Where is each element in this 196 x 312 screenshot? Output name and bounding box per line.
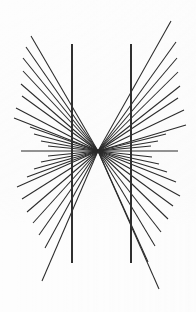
figure-background [0,0,196,312]
illusion-canvas [0,0,196,312]
illusion-figure [0,0,196,312]
